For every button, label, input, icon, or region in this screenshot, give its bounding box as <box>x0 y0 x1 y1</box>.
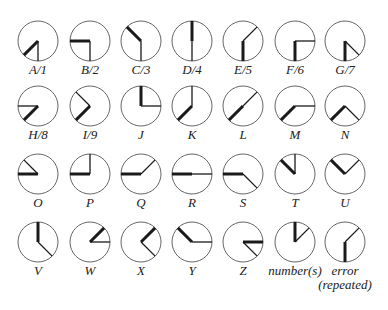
glyph-label: U <box>305 196 385 210</box>
semaphore-glyph-e-5 <box>223 21 263 61</box>
semaphore-glyph-o <box>18 154 58 194</box>
thin-hand <box>24 160 38 174</box>
semaphore-diagram: A/1B/2C/3D/4E/5F/6G/7H/8I/9JKLMNOPQRSTUV… <box>0 0 388 310</box>
semaphore-glyph-l <box>223 86 263 126</box>
thin-hand <box>243 92 257 106</box>
thin-hand <box>345 106 359 120</box>
thin-hand <box>243 242 257 256</box>
semaphore-glyph-a-1 <box>18 21 58 61</box>
thin-hand <box>141 160 155 174</box>
glyph-label: G/7 <box>305 63 385 77</box>
thick-hand <box>281 106 295 120</box>
semaphore-glyph-u <box>325 154 365 194</box>
thick-hand <box>331 106 345 120</box>
semaphore-glyph-d-4 <box>172 21 212 61</box>
thick-hand <box>178 106 192 120</box>
thick-hand <box>141 228 155 242</box>
thick-hand <box>76 106 90 120</box>
semaphore-glyph-c-3 <box>121 21 161 61</box>
thin-hand <box>76 92 90 106</box>
semaphore-glyph-number-s- <box>275 222 315 262</box>
thick-hand <box>127 27 141 41</box>
thin-hand <box>345 228 359 242</box>
semaphore-glyph-m <box>275 86 315 126</box>
thick-hand <box>331 160 345 174</box>
thin-hand <box>345 41 359 55</box>
glyph-label: error(repeated) <box>305 264 385 292</box>
semaphore-glyph-q <box>121 154 161 194</box>
semaphore-glyph-w <box>70 222 110 262</box>
glyph-label: N <box>305 128 385 142</box>
thin-hand <box>345 160 359 174</box>
thin-hand <box>38 242 52 256</box>
semaphore-glyph-s <box>223 154 263 194</box>
semaphore-glyph-g-7 <box>325 21 365 61</box>
semaphore-glyph-f-6 <box>275 21 315 61</box>
thin-hand <box>295 228 309 242</box>
thick-hand <box>281 160 295 174</box>
semaphore-glyph-p <box>70 154 110 194</box>
thin-hand <box>243 174 257 188</box>
semaphore-glyph-j <box>121 86 161 126</box>
thin-hand <box>141 242 155 256</box>
thick-hand <box>24 41 38 55</box>
glyph-label-line: (repeated) <box>305 278 385 292</box>
thick-hand <box>24 106 38 120</box>
thick-hand <box>178 228 192 242</box>
semaphore-glyph-r <box>172 154 212 194</box>
semaphore-glyph-error-repeated- <box>325 222 365 262</box>
glyph-label-line: error <box>305 264 385 278</box>
semaphore-glyph-t <box>275 154 315 194</box>
semaphore-glyph-b-2 <box>70 21 110 61</box>
semaphore-glyph-v <box>18 222 58 262</box>
semaphore-glyph-k <box>172 86 212 126</box>
semaphore-glyph-i-9 <box>70 86 110 126</box>
semaphore-glyph-z <box>223 222 263 262</box>
thick-hand <box>229 106 243 120</box>
semaphore-glyph-x <box>121 222 161 262</box>
semaphore-glyph-y <box>172 222 212 262</box>
semaphore-glyph-n <box>325 86 365 126</box>
semaphore-glyph-h-8 <box>18 86 58 126</box>
thin-hand <box>243 27 257 41</box>
thick-hand <box>90 228 104 242</box>
